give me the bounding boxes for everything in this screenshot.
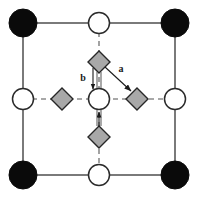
lattice-diagram-root: a b [0, 0, 199, 198]
atom-corner-bottom-left [9, 161, 37, 189]
vector-a-label: a [119, 63, 124, 74]
lattice-svg: a b [0, 0, 199, 198]
atom-edge-right [165, 89, 186, 110]
vector-b-label: b [80, 72, 86, 83]
atom-edge-top [89, 13, 110, 34]
atom-corner-top-right [161, 9, 189, 37]
atom-edge-bottom [89, 165, 110, 186]
atom-corner-bottom-right [161, 161, 189, 189]
atom-center [89, 89, 110, 110]
atom-edge-left [13, 89, 34, 110]
atom-corner-top-left [9, 9, 37, 37]
